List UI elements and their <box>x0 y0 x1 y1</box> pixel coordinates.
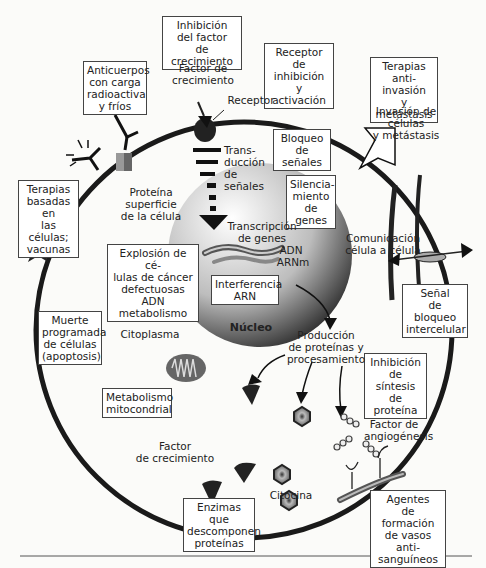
label-factor-angiogenesis: Factor de angiogénesis <box>364 418 424 442</box>
box-agentes: Agentes de formación de vasos anti- sang… <box>370 490 446 568</box>
box-interferencia: Interferencia ARN <box>211 275 279 305</box>
label-proteina-superficie: Proteína superficie de la célula <box>118 186 184 222</box>
label-transduccion: Trans- ducción de señales <box>224 144 270 192</box>
box-explosion: Explosión de cé- lulas de cáncer defectu… <box>107 244 199 322</box>
box-inhibicion-sintesis: Inhibición de síntesis de proteína <box>364 353 427 419</box>
label-factor-crecimiento-bottom: Factor de crecimiento <box>135 440 215 464</box>
label-arnm: ARNm <box>276 256 310 268</box>
label-adn: ADN <box>276 244 306 256</box>
label-transcripcion: Transcripción de genes <box>224 220 300 244</box>
radiation-marks-icon <box>66 140 88 166</box>
label-comunicacion: Comunicación célula a célula <box>341 232 425 256</box>
box-enzimas: Enzimas que descomponen proteínas <box>183 498 255 552</box>
label-citocina: Citocina <box>266 489 316 501</box>
box-metabolismo: Metabolismo mitocondrial <box>102 388 172 418</box>
box-muerte: Muerte programada de células (apoptosis) <box>38 311 102 365</box>
label-produccion: Producción de proteínas y procesamiento <box>284 329 368 365</box>
box-anticuerpos: Anticuerpos con carga radioactiva y frío… <box>83 61 147 115</box>
label-citoplasma: Citoplasma <box>120 328 180 340</box>
label-receptor: Receptor <box>224 94 278 106</box>
surface-protein-icon <box>116 153 132 171</box>
label-invasion: Invasión de células y metástasis <box>356 105 456 141</box>
box-terapias-celulas: Terapias basadas en las células; vacunas <box>18 180 79 258</box>
box-senal-bloqueo: Señal de bloqueo intercelular <box>402 284 468 338</box>
label-nucleo: Núcleo <box>226 322 276 334</box>
mitochondrion-icon <box>166 354 206 382</box>
box-bloqueo-senales: Bloqueo de señales <box>273 129 331 171</box>
label-factor-crecimiento-top: Factor de crecimiento <box>168 62 238 86</box>
